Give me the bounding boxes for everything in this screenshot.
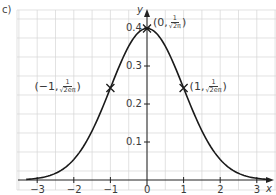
point-annotation-label: (1, 1√2eπ) <box>190 79 227 93</box>
x-tick-label: 2 <box>217 185 223 195</box>
x-tick-label: 3 <box>254 185 260 195</box>
point-annotation-label: (0, 1√2π) <box>153 15 186 29</box>
y-axis-label: y <box>137 5 143 15</box>
axes <box>18 9 274 186</box>
point-annotation-label: (−1, 1√2eπ) <box>34 79 81 93</box>
y-tick-label: 0.3 <box>126 61 142 71</box>
y-tick-label: 0.4 <box>126 23 142 33</box>
x-tick-label: −1 <box>103 185 118 195</box>
x-tick-label: 1 <box>181 185 187 195</box>
y-tick-label: 0.2 <box>126 99 142 109</box>
x-tick-label: −3 <box>30 185 45 195</box>
x-tick-label: −2 <box>67 185 82 195</box>
x-axis-label: x <box>266 184 272 194</box>
y-tick-label: 0.1 <box>126 137 142 147</box>
x-tick-label: 0 <box>144 185 150 195</box>
